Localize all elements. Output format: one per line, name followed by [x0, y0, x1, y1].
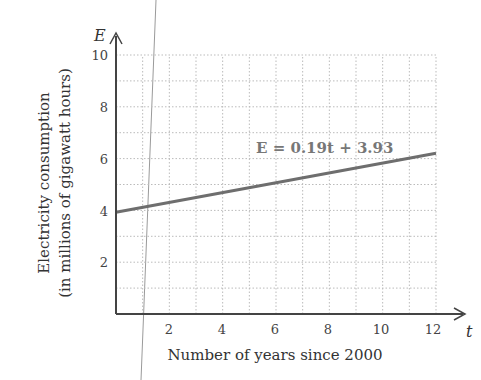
x-tick: 8: [324, 322, 332, 337]
y-tick: 10: [91, 48, 108, 63]
y-axis-title-line2: (in millions of gigawatt hours): [56, 68, 74, 298]
x-tick: 2: [165, 322, 173, 337]
chart-svg: E t 2 4 6 8 10 12 2 4 6 8 10 E = 0.19t +…: [0, 0, 481, 380]
stray-line: [141, 0, 156, 380]
x-variable-label: t: [466, 322, 473, 341]
y-axis-title-line1: Electricity consumption: [35, 92, 53, 274]
x-tick: 6: [271, 322, 279, 337]
x-tick: 4: [218, 322, 226, 337]
y-tick: 2: [100, 255, 108, 270]
x-axis-title: Number of years since 2000: [167, 346, 382, 364]
y-tick: 8: [100, 100, 108, 115]
x-tick-labels: 2 4 6 8 10 12: [165, 322, 441, 337]
y-tick: 4: [100, 204, 108, 219]
grid: [116, 55, 436, 314]
y-variable-label: E: [93, 26, 106, 45]
y-tick: 6: [100, 152, 108, 167]
equation-annotation: E = 0.19t + 3.93: [256, 139, 393, 157]
y-tick-labels: 2 4 6 8 10: [91, 48, 108, 270]
x-tick: 12: [425, 322, 442, 337]
x-tick: 10: [373, 322, 390, 337]
